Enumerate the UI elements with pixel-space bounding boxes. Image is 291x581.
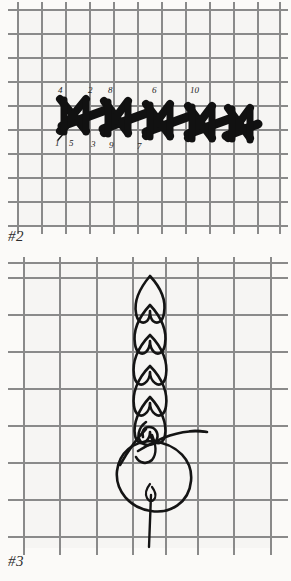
stitch-number-5: 5 (69, 139, 74, 148)
stitch-number-10: 10 (190, 86, 199, 95)
stitch-number-2: 2 (88, 86, 93, 95)
figure-label-3: #3 (8, 553, 24, 570)
stitch-number-7: 7 (137, 142, 142, 151)
diagram-panel-2: 4 2 8 6 10 1 5 3 9 7 #2 (0, 0, 291, 255)
stitch-number-8: 8 (108, 86, 113, 95)
needle-eye-end (190, 431, 207, 432)
stitch-number-6: 6 (152, 86, 157, 95)
diagram-panel-3: #3 (0, 255, 291, 581)
thread-tail (149, 495, 151, 547)
stitch-diagram-page: 4 2 8 6 10 1 5 3 9 7 #2 (0, 0, 291, 581)
braid-chain-stitch-illustration (0, 255, 291, 581)
cross-stitch-row-illustration (0, 0, 291, 255)
stitch-number-4: 4 (58, 86, 63, 95)
stitch-number-9: 9 (109, 141, 114, 150)
stitch-number-3: 3 (91, 140, 96, 149)
figure-label-2: #2 (8, 228, 24, 245)
chain-loop-1 (136, 276, 165, 323)
stitch-number-1: 1 (55, 139, 60, 148)
